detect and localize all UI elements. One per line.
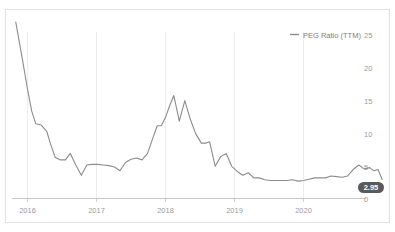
- badge-value: 2.95: [364, 183, 379, 192]
- x-axis-labels: 2016 2017 2018 2019 2020: [19, 206, 312, 215]
- x-tick-label-2019: 2019: [226, 206, 243, 215]
- x-tick-label-2020: 2020: [295, 206, 312, 215]
- x-tick-label-2016: 2016: [19, 206, 36, 215]
- peg-ratio-line-chart[interactable]: 25 20 15 10 5 0 2016 2017 2018 2019 2020: [6, 10, 391, 224]
- chart-plot-area[interactable]: 25 20 15 10 5 0 2016 2017 2018 2019 2020: [6, 10, 391, 224]
- y-tick-label-10: 10: [364, 130, 372, 139]
- last-value-badge: 2.95: [358, 182, 384, 193]
- chart-legend[interactable]: PEG Ratio (TTM): [290, 31, 361, 40]
- y-tick-label-25: 25: [364, 31, 372, 40]
- x-tick-label-2018: 2018: [157, 206, 174, 215]
- y-axis-labels: 25 20 15 10 5 0: [364, 31, 372, 204]
- y-tick-label-20: 20: [364, 64, 372, 73]
- x-tick-label-2017: 2017: [88, 206, 105, 215]
- y-tick-label-5: 5: [364, 163, 368, 172]
- vertical-gridlines: [28, 32, 304, 198]
- screenshot-root: 25 20 15 10 5 0 2016 2017 2018 2019 2020: [0, 0, 395, 232]
- series-line-peg-ratio[interactable]: [16, 22, 382, 181]
- legend-label-peg-ratio: PEG Ratio (TTM): [303, 31, 361, 40]
- y-tick-label-0: 0: [364, 195, 368, 204]
- y-tick-label-15: 15: [364, 97, 372, 106]
- chart-card: 25 20 15 10 5 0 2016 2017 2018 2019 2020: [5, 9, 390, 223]
